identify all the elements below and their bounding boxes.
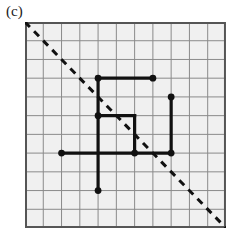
dot-right-lower bbox=[168, 150, 175, 157]
dot-right-upper bbox=[168, 94, 175, 101]
dot-top-right bbox=[149, 75, 156, 82]
lattice-diagram-svg bbox=[25, 22, 226, 228]
panel-label: (c) bbox=[6, 2, 23, 20]
plot-area bbox=[25, 22, 226, 228]
dot-inner-left bbox=[95, 112, 102, 119]
figure-panel: (c) bbox=[0, 0, 232, 234]
dot-top-left bbox=[95, 75, 102, 82]
dot-left-end bbox=[58, 150, 65, 157]
dot-inner-bottom bbox=[131, 150, 138, 157]
dot-bottom-end bbox=[95, 187, 102, 194]
